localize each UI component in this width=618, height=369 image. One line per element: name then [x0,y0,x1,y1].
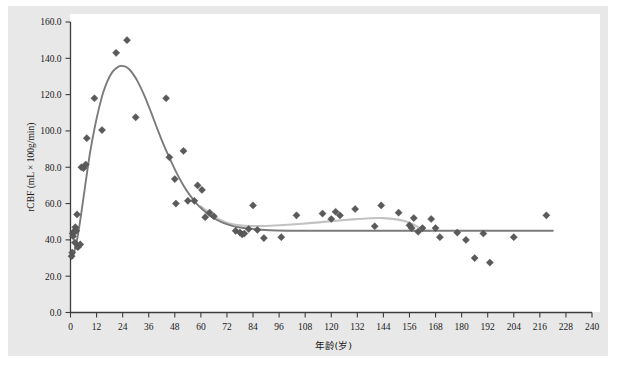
data-point-marker [510,234,517,241]
y-tick-label: 160.0 [40,17,62,27]
data-point-marker [260,234,267,241]
data-point-marker [378,202,385,209]
data-point-marker [184,197,191,204]
data-point-marker [73,211,80,218]
y-axis-tick-labels: 0.020.040.060.080.0100.0120.0140.0160.0 [40,17,62,318]
data-point-marker [171,175,178,182]
data-point-marker [83,135,90,142]
x-axis-title: 年龄(岁) [315,340,352,351]
x-tick-label: 36 [144,322,154,332]
data-point-marker [123,37,130,44]
scatter-chart: 0.020.040.060.080.0100.0120.0140.0160.0 … [0,0,618,369]
data-point-marker [428,215,435,222]
chart-screenshot: 0.020.040.060.080.0100.0120.0140.0160.0 … [0,0,618,369]
data-point-marker [180,147,187,154]
x-tick-label: 48 [170,322,180,332]
x-tick-label: 144 [376,322,391,332]
x-tick-label: 192 [481,322,496,332]
fitted-curves [73,66,553,258]
data-point-marker [462,236,469,243]
data-point-marker [410,214,417,221]
data-point-marker [436,234,443,241]
x-tick-label: 180 [455,322,470,332]
x-tick-label: 84 [248,322,258,332]
data-point-marker [278,234,285,241]
y-tick-label: 40.0 [45,235,62,245]
x-tick-label: 60 [196,322,206,332]
data-point-marker [254,226,261,233]
x-tick-label: 108 [298,322,313,332]
y-tick-label: 20.0 [45,272,62,282]
axis-lines [71,22,593,313]
x-tick-label: 228 [559,322,574,332]
x-tick-label: 216 [533,322,548,332]
x-tick-label: 120 [324,322,339,332]
data-point-marker [352,205,359,212]
data-point-marker [293,212,300,219]
x-tick-label: 24 [118,322,128,332]
x-tick-label: 72 [222,322,232,332]
data-point-marker [471,254,478,261]
x-tick-label: 204 [507,322,522,332]
y-tick-label: 60.0 [45,199,62,209]
data-point-marker [163,95,170,102]
x-tick-label: 132 [350,322,365,332]
y-tick-label: 0.0 [50,308,62,318]
data-point-marker [543,212,550,219]
y-axis-title: rCBF (mL × 100g/min) [26,123,37,212]
axes-group [66,22,593,318]
data-point-marker [319,210,326,217]
data-point-marker [371,223,378,230]
x-axis-ticks [71,313,593,318]
data-point-marker [172,200,179,207]
y-tick-label: 80.0 [45,163,62,173]
data-point-marker [91,95,98,102]
data-point-marker [249,202,256,209]
y-tick-label: 100.0 [40,126,62,136]
y-tick-label: 140.0 [40,54,62,64]
fitted-curve-primary [73,66,553,258]
x-axis-tick-labels: 0122436486072849610812013214415616818019… [68,322,599,332]
data-point-marker [98,126,105,133]
y-tick-label: 120.0 [40,90,62,100]
y-axis-ticks [66,22,71,313]
x-tick-label: 156 [402,322,417,332]
x-tick-label: 0 [68,322,73,332]
x-tick-label: 168 [428,322,443,332]
data-point-marker [113,49,120,56]
x-tick-label: 96 [274,322,284,332]
x-tick-label: 240 [585,322,600,332]
data-point-marker [395,209,402,216]
data-point-marker [166,154,173,161]
data-point-marker [486,259,493,266]
x-tick-label: 12 [92,322,102,332]
data-point-marker [132,114,139,121]
